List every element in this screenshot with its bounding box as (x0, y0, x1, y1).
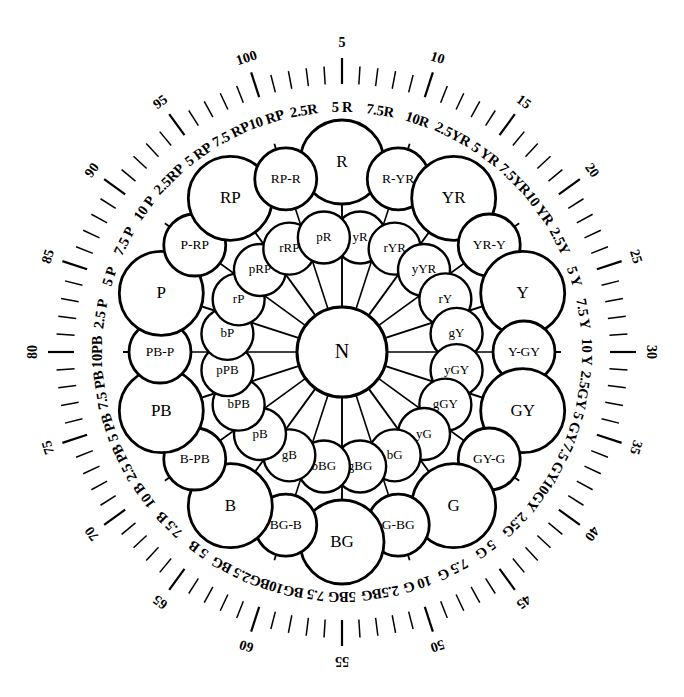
scale-tick-minor (486, 578, 496, 593)
scale-number: 100 (234, 47, 259, 68)
scale-tick-major (597, 435, 622, 443)
scale-tick-major (62, 261, 87, 269)
scale-tick-major (251, 607, 259, 632)
inner-ring-label: gBG (348, 458, 373, 473)
scale-tick-minor (134, 535, 147, 547)
scale-number: 75 (39, 439, 58, 457)
hue-notation-label: 7.5 BG (282, 583, 325, 605)
hue-notation-label: 2.5R (289, 100, 320, 120)
inner-ring-label: rRP (279, 240, 299, 255)
scale-tick-minor (101, 496, 116, 506)
outer-ring-label: PB (151, 401, 172, 420)
scale-tick-minor (271, 612, 275, 629)
scale-tick-minor (122, 170, 136, 181)
center-neutral-label: N (335, 340, 349, 362)
scale-tick-minor (549, 170, 563, 181)
scale-tick-minor (409, 612, 413, 629)
scale-tick-major (500, 114, 515, 135)
scale-tick-minor (392, 71, 395, 89)
scale-tick-minor (237, 601, 244, 618)
inner-ring-label: bPB (227, 396, 250, 411)
scale-tick-minor (471, 587, 480, 603)
scale-tick-minor (525, 144, 537, 157)
inner-ring-label: yR (353, 229, 369, 244)
inner-ring-label: yGY (444, 362, 470, 377)
outer-ring-label: GY-G (473, 451, 505, 466)
scale-number: 45 (514, 592, 534, 612)
hue-notation-label: 7.5 RP (210, 118, 253, 151)
hue-notation-label: 7.5 G (435, 556, 471, 585)
hue-notation-label: 5 PB (97, 411, 121, 444)
inner-ring-label: yYR (412, 261, 437, 276)
outer-ring-label: R-YR (382, 171, 414, 186)
inner-ring-label: gY (449, 325, 466, 340)
inner-ring-label: pB (252, 426, 268, 441)
scale-number: 5 (339, 35, 346, 50)
scale-tick-major (425, 72, 433, 97)
hue-notation-label: 10 YR (522, 188, 557, 228)
scale-tick-minor (58, 316, 76, 318)
scale-tick-minor (513, 132, 524, 146)
outer-ring-label: R (336, 152, 348, 171)
scale-tick-minor (456, 594, 464, 610)
scale-tick-minor (76, 247, 93, 254)
outer-ring-label: Y-GY (508, 344, 540, 359)
hue-notation-label: 2.5RP (150, 160, 187, 197)
scale-tick-major (62, 435, 87, 443)
scale-tick-minor (122, 523, 136, 534)
scale-tick-minor (146, 144, 158, 157)
scale-tick-minor (83, 230, 99, 238)
scale-tick-major (425, 607, 433, 632)
hue-notation-label: 10 P (130, 193, 159, 224)
scale-number: 25 (627, 247, 646, 265)
scale-tick-minor (204, 101, 213, 117)
scale-tick-minor (584, 466, 600, 474)
scale-tick-minor (376, 68, 378, 86)
hue-notation-label: 10 B (129, 480, 158, 512)
scale-tick-minor (602, 419, 619, 423)
scale-tick-minor (58, 386, 76, 388)
scale-tick-minor (486, 111, 496, 126)
hue-notation-label: 7.5R (365, 100, 396, 120)
hue-notation-label: 2.5YR (432, 118, 474, 150)
scale-tick-minor (568, 199, 583, 209)
hue-notation-label: 5BG (328, 589, 356, 605)
hue-notation-label: 7.5 PB (89, 369, 111, 411)
scale-tick-major (169, 114, 184, 135)
outer-ring-label: B (225, 496, 236, 515)
outer-ring-label: B-PB (180, 451, 210, 466)
scale-number: 10 (429, 49, 447, 68)
scale-number: 70 (82, 524, 102, 544)
scale-tick-minor (57, 369, 75, 370)
scale-tick-minor (220, 594, 228, 610)
scale-tick-minor (288, 71, 291, 89)
inner-ring-label: bP (221, 325, 235, 340)
scale-tick-major (559, 179, 580, 194)
hue-notation-label: 2.5BG (360, 583, 400, 605)
inner-ring-label: bG (387, 447, 403, 462)
inner-ring-label: gB (282, 447, 298, 462)
hue-notation-label: 7.5 Y (573, 297, 594, 331)
scale-tick-minor (76, 451, 93, 458)
scale-tick-minor (189, 578, 199, 593)
scale-tick-minor (376, 618, 378, 636)
scale-tick-minor (83, 466, 99, 474)
scale-number: 55 (335, 654, 349, 669)
hue-notation-label: 7.5 B (152, 508, 185, 541)
inner-ring-label: pR (316, 229, 332, 244)
scale-tick-minor (288, 615, 291, 633)
scale-number: 60 (237, 637, 255, 656)
scale-tick-minor (65, 281, 82, 285)
outer-ring-label: RP (220, 188, 241, 207)
munsell-hue-circle-figure: RR-YRYRYR-YYY-GYGYGY-GGG-BGBGBG-BBB-PBPB… (0, 0, 684, 697)
scale-tick-minor (591, 247, 608, 254)
scale-tick-minor (101, 199, 116, 209)
scale-tick-minor (160, 559, 171, 573)
scale-tick-minor (549, 523, 563, 534)
scale-tick-major (169, 569, 184, 590)
scale-tick-minor (441, 601, 448, 618)
outer-ring-label: YR (442, 188, 466, 207)
scale-number: 20 (582, 160, 602, 180)
outer-ring-label: G (448, 496, 460, 515)
hue-wheel-svg: RR-YRYRYR-YYY-GYGYGY-GGG-BGBGBG-BBB-PBPB… (0, 0, 684, 697)
